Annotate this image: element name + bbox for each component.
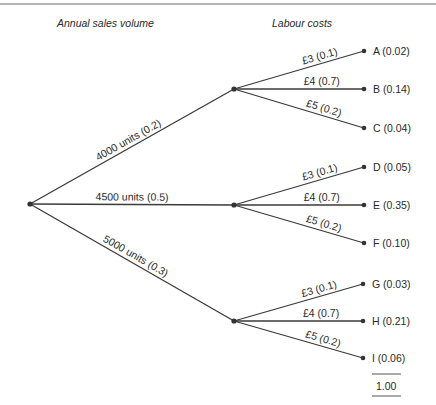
labour-branch-label: £5 (0.2) xyxy=(305,212,343,234)
labour-branch-label: £4 (0.7) xyxy=(303,307,339,319)
sales-chance-node xyxy=(231,86,236,91)
labour-branch-label: £5 (0.2) xyxy=(304,328,342,350)
labour-branch-label: £5 (0.2) xyxy=(305,97,343,119)
labour-branch-edge xyxy=(234,167,364,205)
root-node xyxy=(27,201,32,206)
sales-branch-label: 4500 units (0.5) xyxy=(96,190,169,202)
outcome-label: C (0.04) xyxy=(373,122,411,134)
header-labour-costs: Labour costs xyxy=(272,17,333,29)
sales-branch-label: 5000 units (0.3) xyxy=(101,232,170,279)
outcome-label: I (0.06) xyxy=(372,352,405,364)
sales-branch-edge xyxy=(30,204,234,205)
outcome-label: B (0.14) xyxy=(373,83,410,95)
outcome-label: H (0.21) xyxy=(372,315,410,327)
outcome-leaf-node xyxy=(362,126,367,131)
probability-tree-diagram: Annual sales volume Labour costs 4000 un… xyxy=(0,0,436,405)
labour-branch-edge xyxy=(234,284,363,321)
header-annual-sales-volume: Annual sales volume xyxy=(56,17,154,29)
sales-branch-edge xyxy=(30,204,234,321)
labour-branch-label: £3 (0.1) xyxy=(300,278,338,300)
labour-branch-label: £4 (0.7) xyxy=(304,75,340,87)
sales-branch-label: 4000 units (0.2) xyxy=(93,116,162,162)
outcome-leaf-node xyxy=(362,165,367,170)
outcome-label: D (0.05) xyxy=(373,161,411,173)
outcome-label: F (0.10) xyxy=(373,237,410,249)
sales-chance-node xyxy=(231,318,236,323)
outcome-leaf-node xyxy=(361,319,366,324)
labour-branch-edge xyxy=(234,321,363,358)
labour-branch-edge xyxy=(234,205,364,243)
outcome-leaf-node xyxy=(361,356,366,361)
outcome-label: G (0.03) xyxy=(372,278,411,290)
outcome-leaf-node xyxy=(362,241,367,246)
outcome-label: A (0.02) xyxy=(373,45,410,57)
labour-branch-label: £4 (0.7) xyxy=(304,191,340,203)
total-probability: 1.00 xyxy=(376,380,397,392)
outcome-leaf-node xyxy=(362,87,367,92)
outcome-leaf-node xyxy=(362,203,367,208)
sales-branch-edge xyxy=(30,89,234,204)
labour-branch-label: £3 (0.1) xyxy=(300,161,338,183)
labour-branch-edge xyxy=(234,89,364,128)
outcome-leaf-node xyxy=(361,282,366,287)
sales-chance-node xyxy=(231,202,236,207)
outcome-label: E (0.35) xyxy=(373,199,410,211)
outcome-leaf-node xyxy=(362,49,367,54)
labour-branch-label: £3 (0.1) xyxy=(300,45,338,67)
labour-branch-edge xyxy=(234,51,364,89)
